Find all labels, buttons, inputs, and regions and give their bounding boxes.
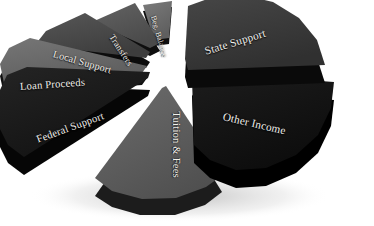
pie-slice-state-support[interactable]: [185, 0, 325, 88]
pie-chart-canvas: [0, 0, 374, 226]
pie-chart-figure: State Support Other Income Tuition & Fee…: [0, 0, 374, 226]
pie-slice-other-income[interactable]: [192, 72, 334, 188]
pie-slice-state-support-top: [185, 0, 325, 70]
